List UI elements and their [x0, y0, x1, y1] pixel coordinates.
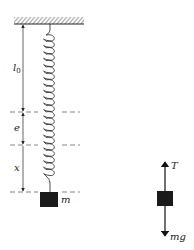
spring — [44, 24, 55, 192]
displacement-label: x — [14, 162, 20, 173]
fbd-block — [157, 191, 173, 206]
ceiling — [14, 17, 84, 24]
free-body-diagram: T mg — [157, 160, 186, 242]
extension-label: e — [14, 122, 20, 133]
tension-label: T — [171, 160, 179, 171]
mass-label: m — [61, 194, 70, 205]
spring-mass-diagram: l0 e x m T mg — [0, 0, 194, 250]
natural-length-label: l0 — [13, 62, 21, 75]
mass-block — [40, 192, 58, 207]
weight-label: mg — [170, 231, 186, 242]
